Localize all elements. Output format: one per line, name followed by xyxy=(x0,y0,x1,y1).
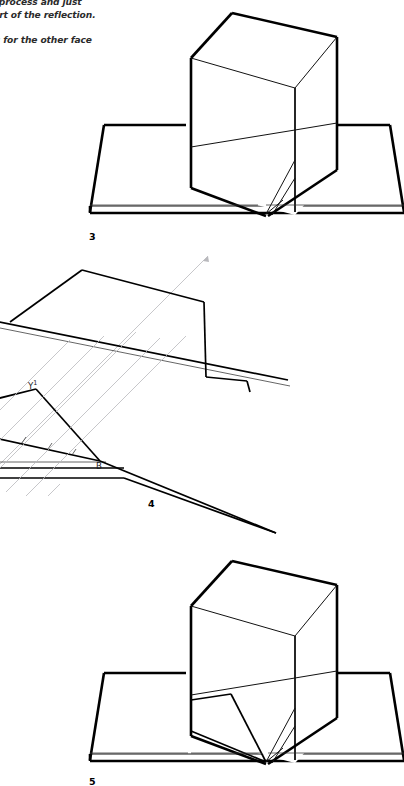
figure-5-drawing xyxy=(0,0,404,786)
figure-label-5: 5 xyxy=(89,776,96,786)
illustration-page: ...es in the process and just ...levant … xyxy=(0,0,404,786)
